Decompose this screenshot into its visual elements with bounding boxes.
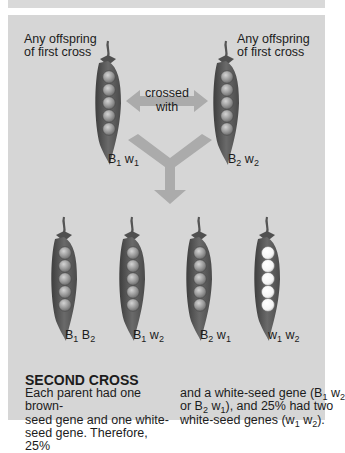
crossed-with-line2: with [140,100,194,114]
pea-pod-offspring-2 [119,217,145,341]
offspring-1-genotype: B1 B2 [65,328,95,342]
caption-column-1: Each parent had one brown- seed gene and… [25,387,175,453]
pea-pod-right-parent [213,41,239,165]
right-parent-label: Any offspring of first cross [237,33,310,59]
merge-arrow-icon [128,134,212,204]
pea-pod-offspring-1 [51,217,77,341]
crossed-with-label: crossed with [140,86,194,114]
left-parent-label-line2: of first cross [24,46,97,59]
right-parent-label-line2: of first cross [237,46,310,59]
left-parent-label: Any offspring of first cross [24,33,97,59]
caption-col2-line3: white-seed genes (w1 w2). [180,414,330,427]
caption-column-2: and a white-seed gene (B1 w2 or B2 w1), … [180,387,330,427]
pea-pod-offspring-3 [186,217,212,341]
offspring-2-genotype: B1 w2 [133,328,164,342]
offspring-4-genotype: w1 w2 [268,328,300,342]
caption-col2-line1: and a white-seed gene (B1 w2 [180,387,330,400]
crossed-with-line1: crossed [140,86,194,100]
pea-pod-left-parent [95,41,121,165]
right-parent-genotype: B2 w2 [228,152,259,166]
pea-pod-offspring-4 [254,217,280,341]
offspring-3-genotype: B2 w1 [200,328,231,342]
caption-col1-line3: seed gene. Therefore, 25% [25,427,175,453]
caption-col2-line2: or B2 w1), and 25% had two [180,400,330,413]
caption-col1-line2: seed gene and one white- [25,414,175,427]
left-parent-genotype: B1 w1 [108,152,139,166]
caption-col1-line1: Each parent had one brown- [25,387,175,414]
